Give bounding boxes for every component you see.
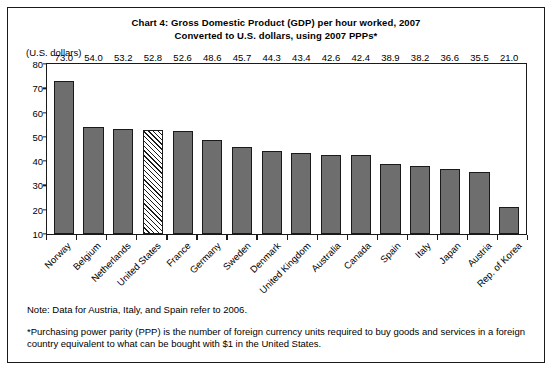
y-tick-label-70: 70: [32, 83, 43, 94]
x-label-canada: Canada: [342, 240, 373, 271]
bar-slot-united-states: 52.8: [138, 64, 168, 234]
bar-rep-of-korea[interactable]: 21.0: [499, 207, 519, 234]
y-tick-label-80: 80: [32, 59, 43, 70]
x-label-japan: Japan: [437, 240, 463, 266]
bar-denmark[interactable]: 44.3: [262, 151, 282, 234]
y-tick-label-40: 40: [32, 156, 43, 167]
bar-germany[interactable]: 48.6: [202, 140, 222, 234]
y-tick-label-60: 60: [32, 107, 43, 118]
x-tick-mark: [527, 235, 528, 240]
chart-title-block: Chart 4: Gross Domestic Product (GDP) pe…: [8, 17, 544, 42]
bar-value-label: 38.9: [381, 52, 400, 63]
bar-canada[interactable]: 42.4: [351, 155, 371, 234]
bar-united-kingdom[interactable]: 43.4: [291, 153, 311, 234]
note-data-reference: Note: Data for Austria, Italy, and Spain…: [27, 304, 527, 317]
bar-slot-austria: 35.5: [465, 64, 495, 234]
bar-slot-italy: 38.2: [405, 64, 435, 234]
bar-value-label: 38.2: [411, 52, 430, 63]
x-label-australia: Australia: [309, 240, 343, 274]
x-label-germany: Germany: [187, 240, 222, 275]
x-label-italy: Italy: [413, 240, 433, 260]
bar-value-label: 35.5: [470, 52, 489, 63]
bar-slot-canada: 42.4: [346, 64, 376, 234]
chart-figure: Chart 4: Gross Domestic Product (GDP) pe…: [7, 7, 545, 363]
x-label-spain: Spain: [378, 240, 403, 265]
bar-slot-australia: 42.6: [316, 64, 346, 234]
bar-series: 73.054.053.252.852.648.645.744.343.442.6…: [47, 64, 526, 234]
bar-value-label: 48.6: [203, 52, 222, 63]
bar-value-label: 44.3: [262, 52, 281, 63]
bar-spain[interactable]: 38.9: [380, 164, 400, 234]
y-tick-label-50: 50: [32, 131, 43, 142]
bar-italy[interactable]: 38.2: [410, 166, 430, 234]
bar-slot-denmark: 44.3: [257, 64, 287, 234]
bar-norway[interactable]: 73.0: [54, 81, 74, 234]
bar-value-label: 53.2: [114, 52, 133, 63]
bar-slot-netherlands: 53.2: [108, 64, 138, 234]
x-label-france: France: [164, 240, 193, 269]
bar-slot-rep-of-korea: 21.0: [494, 64, 524, 234]
bar-slot-belgium: 54.0: [79, 64, 109, 234]
bar-slot-france: 52.6: [168, 64, 198, 234]
bar-slot-norway: 73.0: [49, 64, 79, 234]
bar-value-label: 52.8: [144, 52, 163, 63]
x-axis-labels: NorwayBelgiumNetherlandsUnited StatesFra…: [46, 240, 527, 302]
bar-japan[interactable]: 36.6: [440, 169, 460, 234]
bar-value-label: 43.4: [292, 52, 311, 63]
y-tick-label-10: 10: [32, 229, 43, 240]
bar-france[interactable]: 52.6: [173, 131, 193, 234]
bar-slot-germany: 48.6: [197, 64, 227, 234]
bar-belgium[interactable]: 54.0: [83, 127, 103, 234]
bar-value-label: 42.4: [351, 52, 370, 63]
bar-value-label: 36.6: [441, 52, 460, 63]
bar-slot-united-kingdom: 43.4: [287, 64, 317, 234]
bar-slot-japan: 36.6: [435, 64, 465, 234]
bar-value-label: 52.6: [173, 52, 192, 63]
bar-value-label: 42.6: [322, 52, 341, 63]
note-ppp-definition: *Purchasing power parity (PPP) is the nu…: [27, 326, 527, 351]
y-tick-label-20: 20: [32, 204, 43, 215]
bar-australia[interactable]: 42.6: [321, 155, 341, 234]
chart-title: Chart 4: Gross Domestic Product (GDP) pe…: [8, 17, 544, 30]
plot-area: 8070605040302010 73.054.053.252.852.648.…: [46, 63, 527, 235]
bar-value-label: 54.0: [84, 52, 103, 63]
bar-sweden[interactable]: 45.7: [232, 147, 252, 234]
bar-slot-spain: 38.9: [376, 64, 406, 234]
bar-netherlands[interactable]: 53.2: [113, 129, 133, 234]
bar-value-label: 73.0: [55, 52, 74, 63]
x-label-norway: Norway: [42, 240, 73, 271]
bar-slot-sweden: 45.7: [227, 64, 257, 234]
bar-united-states[interactable]: 52.8: [143, 130, 163, 234]
y-tick-label-30: 30: [32, 180, 43, 191]
notes-block: Note: Data for Austria, Italy, and Spain…: [27, 304, 527, 351]
bar-value-label: 21.0: [500, 52, 519, 63]
bar-value-label: 45.7: [233, 52, 252, 63]
chart-subtitle: Converted to U.S. dollars, using 2007 PP…: [8, 30, 544, 43]
bar-austria[interactable]: 35.5: [469, 172, 489, 234]
x-label-austria: Austria: [465, 240, 494, 269]
